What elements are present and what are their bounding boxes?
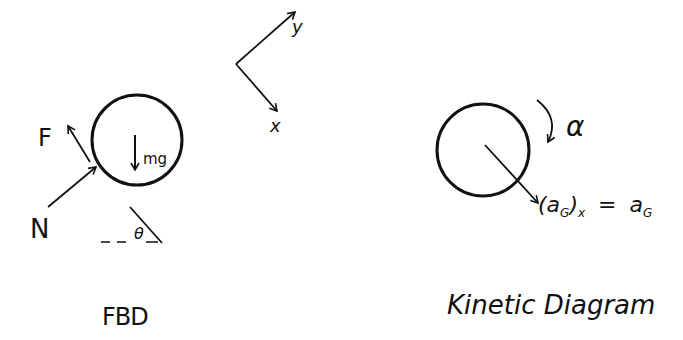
equals-sign: = bbox=[598, 192, 616, 217]
accel-lhs: (a bbox=[538, 192, 560, 217]
accel-lhs-sub: G bbox=[560, 206, 569, 220]
kinetic-diagram-title: Kinetic Diagram bbox=[447, 290, 655, 320]
diagram-canvas bbox=[0, 0, 683, 340]
incline-angle bbox=[101, 207, 162, 243]
normal-force-label: N bbox=[30, 214, 49, 244]
accel-lhs-close: ) bbox=[569, 192, 578, 217]
weight-label: mg bbox=[143, 150, 167, 168]
coordinate-axes bbox=[236, 12, 295, 111]
angle-label: θ bbox=[134, 224, 144, 243]
fbd-body bbox=[92, 95, 182, 185]
accel-x-sub: x bbox=[578, 206, 585, 220]
friction-arrow bbox=[68, 126, 90, 162]
angular-acceleration-arrow bbox=[537, 100, 552, 142]
x-axis-label: x bbox=[270, 115, 281, 136]
angular-acceleration-label: α bbox=[566, 110, 584, 143]
normal-force-arrow bbox=[48, 167, 96, 207]
acceleration-equation: (aG)x = aG bbox=[538, 192, 652, 220]
kinetic-body bbox=[437, 104, 529, 196]
accel-rhs-sub: G bbox=[643, 206, 652, 220]
accel-rhs: a bbox=[630, 192, 643, 217]
y-axis-label: y bbox=[292, 16, 303, 37]
friction-label: F bbox=[38, 124, 52, 152]
fbd-title: FBD bbox=[102, 303, 148, 331]
